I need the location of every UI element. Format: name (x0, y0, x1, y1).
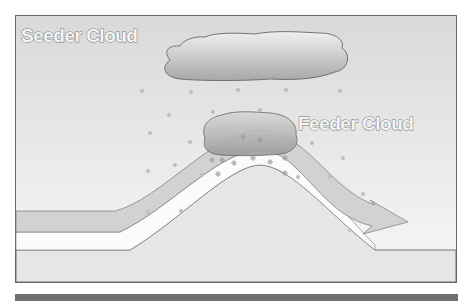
feeder-cloud-label: Feeder Cloud (298, 113, 413, 134)
seeder-cloud (165, 32, 348, 81)
seeder-feeder-diagram: Seeder Cloud Feeder Cloud (0, 0, 475, 301)
feeder-cloud (204, 112, 297, 156)
seeder-cloud-label: Seeder Cloud (21, 25, 137, 46)
bottom-bar (15, 294, 458, 301)
